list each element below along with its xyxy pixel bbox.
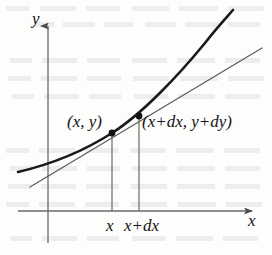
differential-diagram-figure: y x (x, y) (x+dx, y+dy) x x+dx: [0, 0, 272, 255]
function-curve: [18, 10, 233, 172]
x-axis-label: x: [248, 212, 256, 229]
point-label-x-y: (x, y): [67, 113, 102, 130]
y-axis-label: y: [32, 10, 40, 27]
x-tick-label-x: x: [106, 217, 114, 234]
point-marker-x-y: [109, 130, 116, 137]
point-label-x-plus-dx: (x+dx, y+dy): [142, 113, 232, 130]
x-tick-label-x-plus-dx: x+dx: [124, 217, 159, 234]
